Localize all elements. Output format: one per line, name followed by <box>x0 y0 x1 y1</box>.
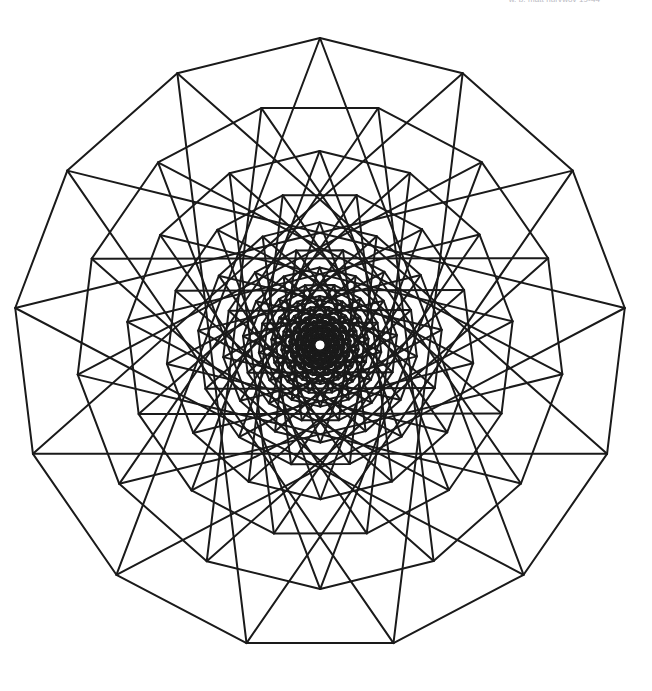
figure-canvas: w. b. matt nurvwov 19-44 <box>0 0 652 691</box>
star-chord-3-9 <box>176 290 464 291</box>
star-chord-5-8 <box>229 310 411 311</box>
star-chord-4-2 <box>205 388 434 389</box>
nested-polygon-spiral-figure <box>0 0 652 691</box>
star-chord-2-3 <box>139 414 502 415</box>
center-dot <box>316 341 324 349</box>
star-chord-6-1 <box>248 372 393 373</box>
